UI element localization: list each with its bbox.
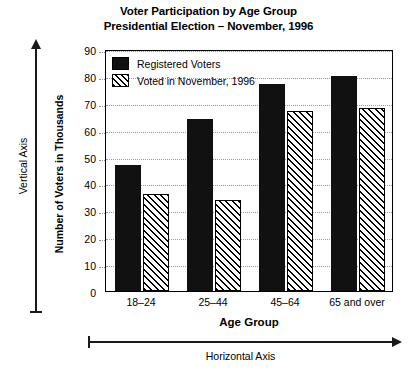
y-axis-tick-mark xyxy=(99,160,105,161)
bar xyxy=(287,111,313,291)
y-tick-label: 90 xyxy=(84,45,96,57)
x-axis-title: Age Group xyxy=(105,316,393,328)
y-tick-label: 30 xyxy=(84,206,96,218)
y-axis-tick-mark xyxy=(99,267,105,268)
bar xyxy=(259,84,285,291)
plot-area: 9080706050403020100 Registered Voters Vo… xyxy=(105,50,393,292)
y-tick-label: 20 xyxy=(84,233,96,245)
legend-label-registered-voters: Registered Voters xyxy=(137,58,220,70)
x-tick-label: 65 and over xyxy=(329,296,384,308)
horizontal-axis-arrow-icon xyxy=(88,341,393,343)
vertical-axis-arrow-icon xyxy=(35,48,37,313)
y-axis-tick-mark xyxy=(99,52,105,53)
bar xyxy=(115,165,141,291)
y-axis-tick-mark xyxy=(99,213,105,214)
legend-swatch-hatch-icon xyxy=(112,74,129,87)
legend: Registered Voters Voted in November, 199… xyxy=(112,55,255,89)
chart-title-line-1: Voter Participation by Age Group xyxy=(0,4,417,19)
x-tick-label: 25–44 xyxy=(198,296,227,308)
y-axis-tick-mark xyxy=(99,240,105,241)
chart-title: Voter Participation by Age Group Preside… xyxy=(0,4,417,34)
y-axis-tick-mark xyxy=(99,133,105,134)
legend-item-voted: Voted in November, 1996 xyxy=(112,72,255,89)
bar xyxy=(215,200,241,291)
y-axis-title: Number of Voters in Thousands xyxy=(53,74,65,274)
y-tick-label: 60 xyxy=(84,126,96,138)
bar xyxy=(143,194,169,291)
bar xyxy=(331,76,357,291)
y-tick-label: 80 xyxy=(84,72,96,84)
horizontal-axis-annotation: Horizontal Axis xyxy=(88,350,393,362)
y-axis-tick-mark xyxy=(99,186,105,187)
chart-page: Voter Participation by Age Group Preside… xyxy=(0,0,417,373)
legend-label-voted: Voted in November, 1996 xyxy=(137,75,255,87)
legend-item-registered-voters: Registered Voters xyxy=(112,55,255,72)
x-tick-label: 45–64 xyxy=(270,296,299,308)
vertical-axis-annotation: Vertical Axis xyxy=(17,121,29,211)
y-axis-tick-mark xyxy=(99,106,105,107)
bar xyxy=(359,108,385,291)
legend-swatch-solid-icon xyxy=(112,57,129,70)
y-tick-label: 40 xyxy=(84,179,96,191)
y-tick-label: 50 xyxy=(84,153,96,165)
y-tick-label: 0 xyxy=(90,287,96,299)
y-axis-tick-mark xyxy=(99,79,105,80)
x-tick-label: 18–24 xyxy=(126,296,155,308)
y-tick-label: 10 xyxy=(84,260,96,272)
chart-title-line-2: Presidential Election – November, 1996 xyxy=(0,19,417,34)
bar xyxy=(187,119,213,291)
y-tick-label: 70 xyxy=(84,99,96,111)
